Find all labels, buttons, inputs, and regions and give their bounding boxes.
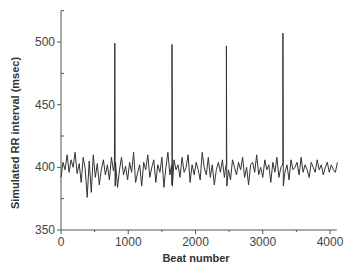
x-tick-label: 4000 <box>317 235 344 249</box>
x-tick-label: 0 <box>58 235 65 249</box>
x-tick-label: 3000 <box>249 235 276 249</box>
y-tick-label: 350 <box>35 223 55 237</box>
axes: 35040045050001000200030004000 <box>35 11 344 249</box>
x-axis-label: Beat number <box>162 252 230 264</box>
rr-interval-chart: 35040045050001000200030004000 Beat numbe… <box>0 0 349 273</box>
y-axis-label: Simulated RR interval (msec) <box>9 57 21 210</box>
y-tick-label: 500 <box>35 35 55 49</box>
y-tick-label: 450 <box>35 98 55 112</box>
x-tick-label: 1000 <box>115 235 142 249</box>
x-tick-label: 2000 <box>182 235 209 249</box>
y-tick-label: 400 <box>35 160 55 174</box>
rr-interval-line <box>61 33 337 197</box>
